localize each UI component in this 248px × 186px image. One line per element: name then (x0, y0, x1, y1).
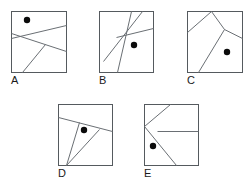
panel-e-square (145, 105, 199, 166)
segment-b-1 (104, 12, 143, 62)
segment-c-2 (212, 12, 225, 30)
figure-stage: ABCDE (0, 0, 248, 186)
segment-b-2 (118, 12, 132, 73)
segment-e-2 (145, 127, 177, 166)
segment-b-3 (117, 29, 154, 38)
segment-c-3 (225, 30, 243, 39)
panel-c-dot (224, 49, 230, 55)
panel-e-label: E (144, 167, 151, 179)
panel-e-dot (150, 143, 156, 149)
panel-d-dot (81, 127, 87, 133)
panel-d-square (59, 105, 113, 166)
panel-a-label: A (11, 74, 19, 86)
panel-a-dot (24, 17, 30, 23)
panel-b-dot (131, 42, 137, 48)
panel-d-label: D (58, 167, 66, 179)
segment-a-2 (12, 34, 67, 52)
panel-c-label: C (187, 74, 195, 86)
panels-root: ABCDE (11, 12, 243, 180)
segment-a-3 (23, 45, 46, 73)
panel-c[interactable]: C (187, 12, 243, 87)
panel-b[interactable]: B (99, 12, 154, 87)
panel-a[interactable]: A (11, 12, 67, 87)
multiple-choice-figure-panels: ABCDE (0, 0, 248, 186)
panel-b-square (100, 12, 154, 73)
segment-c-4 (199, 30, 225, 73)
segment-e-1 (145, 105, 171, 127)
panel-d[interactable]: D (58, 105, 113, 180)
panel-c-square (188, 12, 243, 73)
panel-b-label: B (99, 74, 106, 86)
segment-c-1 (188, 12, 212, 33)
panel-e[interactable]: E (144, 105, 199, 180)
